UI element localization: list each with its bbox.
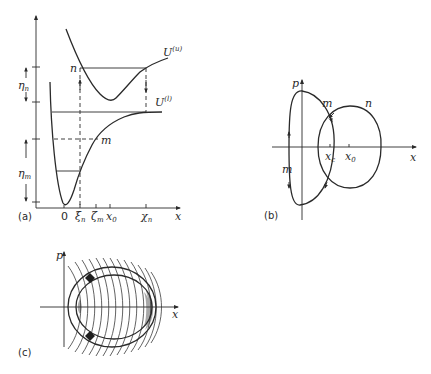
panel-a-tag: (a) bbox=[18, 211, 32, 222]
panel-b-tag: (b) bbox=[264, 210, 278, 221]
c-x-label: x bbox=[172, 308, 179, 321]
tick-label-zero: 0 bbox=[61, 210, 68, 223]
eta-n-label: ηn bbox=[18, 79, 30, 93]
x0-label-b: x0 bbox=[345, 150, 356, 164]
level-m-label: m bbox=[101, 134, 111, 147]
orbit-m-label-left: m bbox=[282, 163, 292, 176]
level-n-label: n bbox=[70, 62, 77, 75]
panel-c-phase-cells: p x (c) bbox=[18, 249, 179, 358]
orbit-n-label: n bbox=[365, 97, 372, 110]
figure: ηn ηm U(u) U(l) n m (a) 0 ξn ζm x0 χn x … bbox=[0, 0, 431, 374]
orbit-m-label-top: m bbox=[322, 97, 332, 110]
tick-label-chi: χn bbox=[140, 210, 153, 224]
upper-potential-curve bbox=[66, 29, 168, 100]
panel-b-phase-orbits: p x xc x0 m m n (b) bbox=[264, 77, 417, 221]
x-axis-label: x bbox=[175, 210, 182, 223]
panel-c-tag: (c) bbox=[18, 347, 31, 358]
tick-label-xi: ξn bbox=[75, 210, 86, 224]
panel-a-potential-curves: ηn ηm U(u) U(l) n m (a) 0 ξn ζm x0 χn x bbox=[18, 16, 183, 224]
tick-label-x0: x0 bbox=[106, 210, 117, 224]
tick-label-zeta: ζm bbox=[91, 210, 104, 224]
upper-curve-label: U(u) bbox=[163, 45, 183, 59]
eta-m-label: ηm bbox=[18, 167, 32, 181]
lower-curve-label: U(l) bbox=[155, 95, 172, 109]
b-p-label: p bbox=[292, 77, 299, 90]
c-p-label: p bbox=[56, 249, 63, 262]
b-x-label: x bbox=[410, 151, 417, 164]
